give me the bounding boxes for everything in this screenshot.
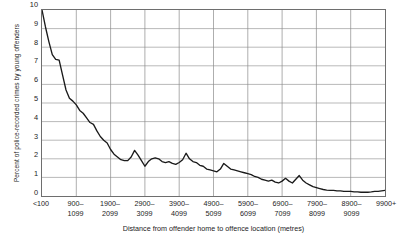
x-axis-title: Distance from offender home to offence l… bbox=[41, 224, 386, 234]
y-tick-label: 8 bbox=[21, 39, 38, 47]
x-tick-label-line2: 9099 bbox=[324, 209, 380, 219]
y-tick-label: 10 bbox=[21, 1, 38, 9]
y-tick-label: 5 bbox=[21, 95, 38, 103]
plot-area bbox=[41, 9, 386, 197]
x-tick-label: 9900+ bbox=[358, 199, 397, 209]
y-tick-label: 9 bbox=[21, 20, 38, 28]
x-tick-label-line1: 9900+ bbox=[358, 199, 397, 209]
y-tick-label: 7 bbox=[21, 57, 38, 65]
x-axis-tick-labels: <100900–10991900–20992900–30993900–40994… bbox=[41, 199, 386, 223]
chart-figure: Percent of police-recorded crimes by you… bbox=[0, 0, 397, 241]
y-tick-label: 3 bbox=[21, 133, 38, 141]
y-tick-label: 6 bbox=[21, 76, 38, 84]
y-tick-label: 4 bbox=[21, 114, 38, 122]
y-tick-label: 1 bbox=[21, 170, 38, 178]
y-tick-label: 0 bbox=[21, 189, 38, 197]
y-tick-label: 2 bbox=[21, 151, 38, 159]
y-axis-tick-labels: 012345678910 bbox=[21, 5, 38, 197]
line-chart-svg bbox=[42, 10, 385, 196]
